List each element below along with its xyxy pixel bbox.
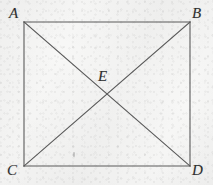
stray-speck-mark bbox=[73, 152, 75, 157]
vertex-label-b: B bbox=[192, 6, 201, 21]
vertex-label-e: E bbox=[98, 69, 107, 84]
diagonals-group bbox=[24, 22, 190, 166]
vertex-label-c: C bbox=[7, 163, 17, 178]
square-diagram-svg bbox=[0, 0, 213, 185]
geometry-figure: A B C D E bbox=[0, 0, 213, 185]
vertex-label-a: A bbox=[9, 6, 18, 21]
vertex-label-d: D bbox=[192, 163, 203, 178]
